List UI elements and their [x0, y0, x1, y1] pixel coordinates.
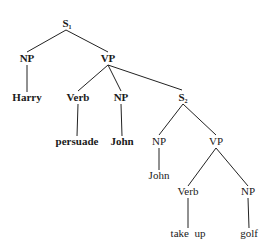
node-harry: Harry — [12, 91, 42, 103]
edge-vp1-verb1 — [78, 65, 108, 91]
node-vp1: VP — [101, 52, 116, 64]
edge-s2-vp2 — [183, 104, 216, 135]
node-vp2: VP — [209, 135, 223, 147]
node-np4: NP — [241, 185, 255, 197]
node-verb2: Verb — [178, 185, 199, 197]
edge-s2-np3 — [159, 104, 183, 135]
syntax-tree: S1 NP VP Harry Verb NP persuade John S2 … — [0, 0, 274, 250]
node-john1: John — [110, 135, 133, 147]
edge-np4-golf — [248, 198, 249, 228]
tree-edges — [27, 30, 249, 228]
node-golf: golf — [240, 227, 258, 239]
node-np2: NP — [114, 91, 129, 103]
edge-s1-np1 — [27, 30, 66, 52]
edge-verb1-persuade — [77, 104, 78, 136]
node-np1: NP — [20, 52, 35, 64]
node-s1: S1 — [62, 17, 71, 30]
node-john2: John — [149, 169, 170, 181]
node-s2: S2 — [178, 91, 187, 104]
edge-vp2-verb2 — [188, 148, 216, 186]
node-persuade: persuade — [56, 135, 99, 147]
node-verb1: Verb — [67, 91, 90, 103]
node-np3: NP — [152, 135, 166, 147]
node-takeup: take up — [171, 227, 206, 239]
edge-vp2-np4 — [216, 148, 248, 186]
tree-nodes: S1 NP VP Harry Verb NP persuade John S2 … — [12, 17, 258, 239]
edge-np2-john1 — [121, 104, 122, 136]
edge-s1-vp1 — [66, 30, 108, 52]
